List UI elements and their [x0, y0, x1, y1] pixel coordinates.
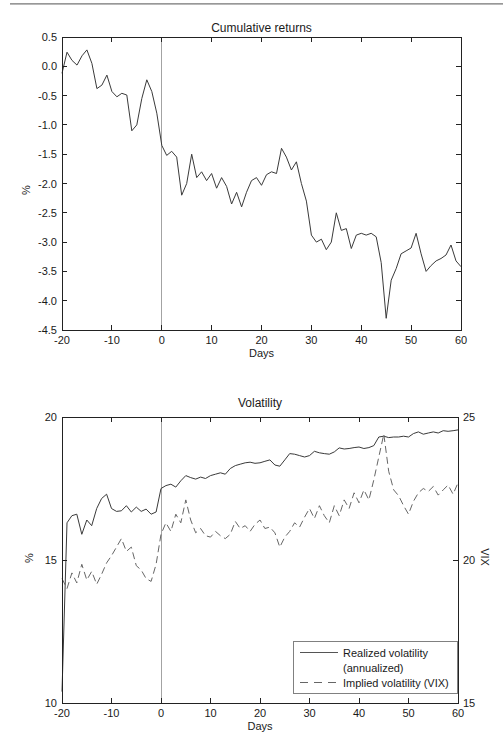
- empty-sample: [294, 660, 343, 675]
- x-axis-label: Days: [62, 720, 458, 732]
- legend-label: (annualized): [343, 662, 404, 674]
- y-tick-label-left: -3.0: [38, 236, 57, 248]
- figure-page: { "chart_data": [ { "type": "line", "tit…: [0, 0, 503, 740]
- legend-label: Implied volatility (VIX): [343, 677, 449, 689]
- implied-volatility-series: [62, 434, 458, 588]
- chart-plot-area: -20-1001020304050600.50.0-0.5-1.0-1.5-2.…: [0, 0, 503, 375]
- x-tick-label: 30: [303, 707, 315, 719]
- cumulative-returns-chart: Cumulative returns % -20-100102030405060…: [0, 0, 503, 375]
- legend-item-implied: Implied volatility (VIX): [294, 675, 457, 690]
- y-tick-label-left: -1.0: [38, 119, 57, 131]
- legend-item-realized-line2: (annualized): [294, 660, 457, 675]
- x-tick-label: 10: [204, 707, 216, 719]
- y-tick-label-left: 0.0: [42, 60, 57, 72]
- y-tick-label-right: 20: [463, 554, 475, 566]
- axes-frame: [62, 37, 461, 330]
- legend-item-realized: Realized volatility: [294, 645, 457, 660]
- y-tick-label-left: -2.0: [38, 178, 57, 190]
- x-tick-label: 30: [305, 334, 317, 346]
- cumulative-returns-series: [62, 50, 461, 318]
- solid-line-sample: [294, 645, 343, 660]
- y-tick-label-left: -0.5: [38, 90, 57, 102]
- legend-label: Realized volatility: [343, 647, 428, 659]
- x-tick-label: 20: [254, 707, 266, 719]
- x-tick-label: 50: [402, 707, 414, 719]
- legend: Realized volatility (annualized) Implied…: [293, 641, 458, 694]
- y-tick-label-left: 20: [45, 411, 57, 423]
- x-tick-label: 60: [455, 334, 467, 346]
- y-tick-label-right: 25: [463, 411, 475, 423]
- y-tick-label-left: -1.5: [38, 148, 57, 160]
- volatility-chart: Volatility % VIX -20-1001020304050602015…: [0, 380, 503, 740]
- x-tick-label: 40: [355, 334, 367, 346]
- x-tick-label: 10: [206, 334, 218, 346]
- y-tick-label-right: 15: [463, 697, 475, 709]
- dashed-line-sample: [294, 675, 343, 690]
- y-tick-label-left: 10: [45, 697, 57, 709]
- y-tick-label-left: -4.5: [38, 324, 57, 336]
- x-tick-label: 0: [158, 707, 164, 719]
- x-tick-label: -10: [104, 334, 120, 346]
- y-tick-label-left: 0.5: [42, 31, 57, 43]
- y-tick-label-left: -2.5: [38, 207, 57, 219]
- x-tick-label: -10: [104, 707, 120, 719]
- y-tick-label-left: -4.0: [38, 295, 57, 307]
- x-tick-label: 20: [255, 334, 267, 346]
- x-tick-label: 50: [405, 334, 417, 346]
- x-axis-label: Days: [62, 347, 461, 359]
- y-tick-label-left: 15: [45, 554, 57, 566]
- y-tick-label-left: -3.5: [38, 265, 57, 277]
- x-tick-label: 40: [353, 707, 365, 719]
- x-tick-label: 0: [159, 334, 165, 346]
